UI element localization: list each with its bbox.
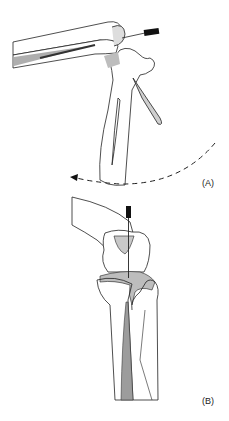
panel-b-label: (B) bbox=[202, 396, 214, 406]
diagram-canvas bbox=[0, 0, 229, 421]
needle-hub-icon bbox=[144, 28, 160, 36]
needle-hub-icon bbox=[126, 206, 131, 218]
arrowhead-icon bbox=[70, 174, 78, 181]
panel-b-illustration bbox=[72, 197, 158, 400]
panel-a-label: (A) bbox=[202, 178, 214, 188]
needle-shaft-icon bbox=[122, 33, 145, 38]
rotation-arrow-icon bbox=[73, 143, 215, 184]
panel-a-illustration bbox=[13, 22, 215, 186]
